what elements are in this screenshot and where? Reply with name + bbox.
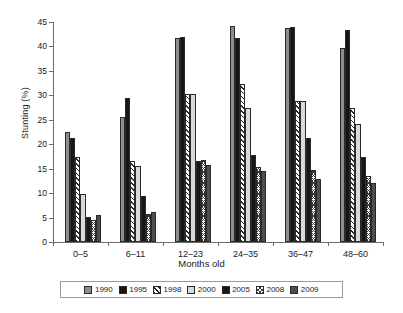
y-axis-tick-mark — [49, 22, 53, 23]
y-axis-tick-label: 45 — [21, 18, 47, 27]
bar — [135, 166, 140, 242]
y-axis-tick-mark — [49, 46, 53, 47]
legend-label: 1995 — [129, 286, 147, 294]
legend-item[interactable]: 2005 — [222, 286, 250, 294]
legend-item[interactable]: 2000 — [187, 286, 215, 294]
y-axis-tick-label: 5 — [21, 214, 47, 223]
legend-label: 2005 — [232, 286, 250, 294]
bar — [196, 161, 201, 242]
bar — [151, 212, 156, 242]
bar — [75, 157, 80, 242]
bar — [91, 220, 96, 242]
bar — [141, 196, 146, 242]
y-axis-tick-mark — [49, 71, 53, 72]
bar — [300, 101, 305, 242]
bar — [295, 101, 300, 242]
legend-label: 2009 — [301, 286, 319, 294]
bar — [206, 165, 211, 242]
x-axis-tick-mark — [383, 242, 384, 246]
y-axis-tick-mark — [49, 95, 53, 96]
legend-label: 2008 — [266, 286, 284, 294]
legend-label: 2000 — [198, 286, 216, 294]
legend-item[interactable]: 1998 — [153, 286, 181, 294]
y-axis-tick-label: 10 — [21, 189, 47, 198]
y-axis-tick-label: 0 — [21, 238, 47, 247]
bar-series-container — [54, 22, 383, 242]
bar — [350, 108, 355, 242]
legend-swatch-icon — [222, 286, 230, 294]
bar — [261, 171, 266, 242]
y-axis-tick-label: 15 — [21, 165, 47, 174]
x-axis-tick-mark — [53, 242, 54, 246]
legend-swatch-icon — [153, 286, 161, 294]
y-axis-tick-label: 35 — [21, 67, 47, 76]
plot-area: 051015202530354045 0–56–1112–2324–3536–4… — [53, 22, 383, 242]
legend-item[interactable]: 1995 — [119, 286, 147, 294]
legend-swatch-icon — [84, 286, 92, 294]
bar-group — [164, 22, 219, 242]
chart-legend: 1990199519982000200520082009 — [60, 281, 343, 298]
y-axis-tick-mark — [49, 144, 53, 145]
legend-item[interactable]: 1990 — [84, 286, 112, 294]
bar — [245, 108, 250, 242]
bar — [316, 179, 321, 242]
legend-swatch-icon — [119, 286, 127, 294]
bar-group — [219, 22, 274, 242]
x-axis-tick-mark — [328, 242, 329, 246]
y-axis-tick-mark — [49, 120, 53, 121]
bar — [306, 138, 311, 242]
x-axis-title: Months old — [0, 258, 403, 269]
bar — [120, 117, 125, 242]
bar — [201, 160, 206, 242]
bar — [235, 38, 240, 242]
bar — [230, 26, 235, 242]
bar — [86, 217, 91, 242]
bar — [175, 38, 180, 242]
legend-label: 1990 — [95, 286, 113, 294]
bar — [70, 138, 75, 242]
bar — [65, 132, 70, 242]
legend-label: 1998 — [164, 286, 182, 294]
bar — [190, 94, 195, 242]
legend-item[interactable]: 2009 — [290, 286, 318, 294]
x-axis-tick-mark — [273, 242, 274, 246]
bar — [240, 84, 245, 242]
x-axis-tick-mark — [163, 242, 164, 246]
bar — [251, 155, 256, 243]
x-axis-tick-mark — [108, 242, 109, 246]
bar — [185, 94, 190, 242]
y-axis-tick-mark — [49, 218, 53, 219]
chart-figure: Stunting (%) 051015202530354045 0–56–111… — [0, 0, 403, 313]
bar — [340, 48, 345, 242]
bar-group — [329, 22, 384, 242]
bar-group — [54, 22, 109, 242]
y-axis-tick-label: 20 — [21, 140, 47, 149]
legend-item[interactable]: 2008 — [256, 286, 284, 294]
bar — [355, 124, 360, 242]
y-axis-title: Stunting (%) — [20, 43, 30, 183]
bar — [180, 37, 185, 242]
bar — [366, 176, 371, 242]
y-axis-tick-label: 25 — [21, 116, 47, 125]
bar — [256, 167, 261, 242]
legend-swatch-icon — [187, 286, 195, 294]
bar-group — [274, 22, 329, 242]
y-axis-tick-mark — [49, 169, 53, 170]
bar — [125, 98, 130, 242]
bar — [361, 157, 366, 242]
y-axis-tick-label: 30 — [21, 91, 47, 100]
legend-swatch-icon — [290, 286, 298, 294]
bar — [130, 161, 135, 242]
x-axis-tick-mark — [218, 242, 219, 246]
bar — [311, 170, 316, 242]
legend-swatch-icon — [256, 286, 264, 294]
bar — [345, 30, 350, 242]
bar — [96, 215, 101, 242]
bar — [371, 183, 376, 242]
bar — [290, 27, 295, 242]
y-axis-tick-mark — [49, 193, 53, 194]
bar — [146, 214, 151, 242]
y-axis-tick-label: 40 — [21, 42, 47, 51]
bar — [285, 28, 290, 242]
bar — [80, 194, 85, 242]
